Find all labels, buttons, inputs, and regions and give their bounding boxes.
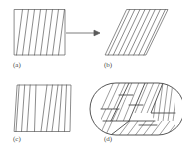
- panel-c-diagram: [13, 83, 75, 135]
- panel-b-label: (b): [104, 62, 112, 69]
- panel-a-lamella: [47, 10, 53, 56]
- panel-c-lamella: [35, 85, 37, 132]
- panel-c-lamella: [65, 85, 67, 132]
- panel-c-lamella: [16, 85, 19, 132]
- panel-c-lamella: [27, 85, 30, 132]
- panel-a-lamella: [29, 10, 35, 56]
- panel-a-lamella: [35, 10, 41, 56]
- panel-c-lamella: [47, 85, 53, 132]
- panel-d-label: (d): [104, 136, 112, 143]
- transform-arrow: [66, 28, 100, 38]
- panel-a-lamella: [59, 10, 65, 56]
- panel-a-diagram: [13, 8, 67, 58]
- arrow-head: [94, 30, 100, 36]
- figure-canvas: (a) (b): [0, 0, 182, 154]
- panel-d-region-boundaries: [101, 83, 175, 135]
- panel-c-lamella: [59, 85, 63, 132]
- panel-b-diagram: [104, 8, 170, 58]
- panel-a-lamella: [23, 10, 29, 56]
- panel-c-lamella: [52, 85, 58, 132]
- panel-a-lamella: [41, 10, 47, 56]
- panel-c-lamella: [41, 85, 47, 132]
- panel-a-lamella: [17, 10, 23, 56]
- panel-a-label: (a): [13, 62, 21, 69]
- panel-d-diagram: [99, 81, 177, 137]
- panel-a-lamella: [53, 10, 59, 56]
- panel-c-lamella: [22, 85, 25, 132]
- panel-c-label: (c): [13, 136, 21, 143]
